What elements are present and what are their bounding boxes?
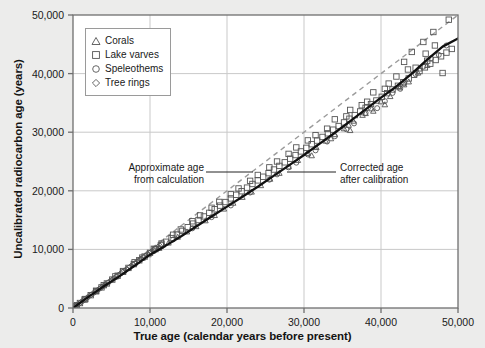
triangle-marker-icon (91, 36, 101, 46)
legend-item-lake-varves: Lake varves (91, 48, 164, 62)
annotation-line-2: after calibration (340, 174, 450, 186)
x-tick-label: 20,000 (211, 316, 243, 328)
legend-label: Corals (105, 36, 134, 46)
x-axis-title: True age (calendar years before present) (0, 330, 485, 342)
diamond-marker-icon (91, 78, 101, 88)
circle-marker-icon (91, 64, 101, 74)
y-axis-title-wrapper: Uncalibrated radiocarbon age (years) (8, 4, 26, 314)
legend-label: Tree rings (105, 78, 150, 88)
x-tick-label: 30,000 (288, 316, 320, 328)
legend-label: Speleothems (105, 64, 163, 74)
figure: 50,000 40,000 30,000 20,000 10,000 0 0 1… (0, 0, 485, 348)
square-marker-icon (91, 50, 101, 60)
legend: Corals Lake varves Speleothems Tree ring… (85, 28, 171, 96)
x-tick-label: 0 (70, 316, 76, 328)
annotation-line-1: Corrected age (340, 162, 450, 174)
x-tick-label: 40,000 (365, 316, 397, 328)
legend-item-corals: Corals (91, 34, 164, 48)
annotation-approximate-age: Approximate age from calculation (108, 162, 204, 186)
y-axis-title: Uncalibrated radiocarbon age (years) (12, 59, 24, 259)
legend-item-tree-rings: Tree rings (91, 76, 164, 90)
annotation-line-2: from calculation (108, 174, 204, 186)
annotation-line-1: Approximate age (108, 162, 204, 174)
legend-label: Lake varves (105, 50, 159, 60)
x-tick-label: 50,000 (442, 316, 474, 328)
legend-item-speleothems: Speleothems (91, 62, 164, 76)
x-tick-label: 10,000 (134, 316, 166, 328)
annotation-corrected-age: Corrected age after calibration (340, 162, 450, 186)
